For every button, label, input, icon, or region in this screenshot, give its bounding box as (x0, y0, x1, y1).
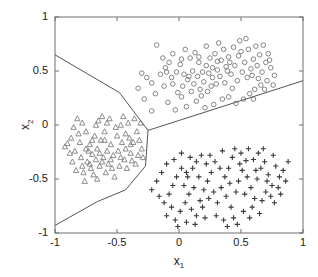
xtick-label: -0.5 (97, 237, 137, 248)
data-markers-circle (136, 36, 277, 113)
xtick-label: -1 (35, 237, 75, 248)
decision-boundary (55, 55, 303, 226)
axes-frame (55, 17, 303, 233)
scatter-plot-figure: 1 0.5 0 -0.5 -1 -1 -0.5 0 0.5 1 x1 x2 (0, 0, 318, 277)
y-axis-title-sub: 2 (26, 119, 35, 123)
tick-marks (55, 17, 303, 233)
data-markers-triangle (62, 114, 145, 184)
ytick-label: 1 (0, 11, 48, 22)
y-axis-title-base: x (18, 124, 32, 130)
y-axis-title: x2 (19, 105, 34, 145)
data-markers-plus (149, 146, 291, 229)
boundary-segment (148, 81, 303, 131)
x-axis-title: x1 (159, 255, 199, 270)
x-axis-title-sub: 1 (180, 261, 184, 270)
ytick-label: 0.5 (0, 65, 48, 76)
ytick-label: -0.5 (0, 173, 48, 184)
xtick-label: 0.5 (221, 237, 261, 248)
xtick-label: 1 (283, 237, 318, 248)
xtick-label: 0 (159, 237, 199, 248)
boundary-segment (55, 55, 148, 131)
